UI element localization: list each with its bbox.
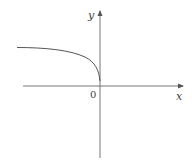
function-graph: y x 0 xyxy=(0,0,192,164)
y-axis-label: y xyxy=(87,9,95,22)
x-axis-label: x xyxy=(176,90,183,103)
function-curve xyxy=(17,48,100,82)
origin-label: 0 xyxy=(90,89,96,100)
